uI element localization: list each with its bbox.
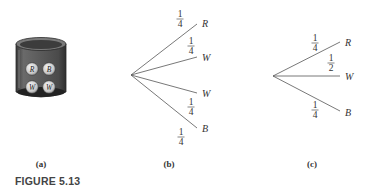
svg-text:1: 1: [179, 127, 184, 137]
ball-r: R: [26, 63, 39, 76]
outcome-b-w2: W: [202, 88, 212, 99]
prob-c-w: 1 2: [328, 53, 335, 73]
svg-text:B: B: [47, 65, 52, 74]
svg-text:4: 4: [178, 19, 183, 29]
panel-label-a: (a): [36, 159, 47, 169]
svg-text:1: 1: [313, 33, 318, 43]
urn-icon: [16, 38, 66, 98]
svg-text:2: 2: [329, 63, 334, 73]
svg-text:4: 4: [179, 137, 184, 147]
svg-text:4: 4: [313, 43, 318, 53]
prob-b-r: 1 4: [177, 9, 184, 29]
prob-b-w2: 1 4: [188, 97, 195, 117]
svg-text:4: 4: [189, 107, 194, 117]
branch-b-w1: [131, 57, 197, 75]
svg-text:1: 1: [329, 53, 334, 63]
svg-text:W: W: [46, 83, 53, 92]
outcome-b-r: R: [201, 18, 208, 29]
branch-b-b: [131, 75, 197, 128]
figure-canvas: R B W W (a) R W W B 1 4 1: [0, 0, 369, 193]
ball-b: B: [43, 63, 56, 76]
prob-b-w1: 1 4: [188, 36, 195, 56]
svg-text:4: 4: [189, 46, 194, 56]
branch-c-b: [273, 76, 340, 111]
branch-b-w2: [131, 75, 197, 93]
outcome-c-r: R: [344, 37, 351, 48]
outcome-c-b: B: [345, 107, 351, 118]
branch-b-r: [131, 24, 197, 75]
prob-b-b: 1 4: [178, 127, 185, 147]
ball-w-2: W: [43, 81, 56, 94]
svg-text:W: W: [29, 83, 36, 92]
panel-label-c: (c): [307, 159, 317, 169]
prob-c-b: 1 4: [312, 100, 319, 120]
figure-caption: FIGURE 5.13: [15, 175, 80, 187]
prob-c-r: 1 4: [312, 33, 319, 53]
svg-text:1: 1: [189, 36, 194, 46]
ball-w-1: W: [26, 81, 39, 94]
svg-text:4: 4: [313, 110, 318, 120]
tree-b-labels: R W W B 1 4 1 4 1 4 1 4 (b): [164, 9, 213, 169]
svg-text:1: 1: [189, 97, 194, 107]
urn-panel: R B W W (a): [16, 38, 66, 170]
svg-text:1: 1: [313, 100, 318, 110]
outcome-b-b: B: [202, 123, 208, 134]
tree-c-labels: R W B 1 4 1 2 1 4 (c): [307, 33, 355, 169]
svg-text:1: 1: [178, 9, 183, 19]
tree-b: [131, 24, 197, 128]
svg-text:R: R: [29, 65, 35, 74]
panel-label-b: (b): [164, 159, 175, 169]
outcome-c-w: W: [345, 71, 355, 82]
outcome-b-w1: W: [202, 52, 212, 63]
